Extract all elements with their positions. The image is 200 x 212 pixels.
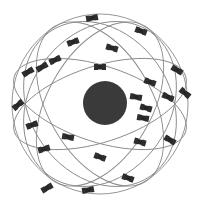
earth-sphere xyxy=(83,81,127,125)
gps-constellation-illustration xyxy=(0,0,200,212)
satellite-icon xyxy=(94,64,106,70)
